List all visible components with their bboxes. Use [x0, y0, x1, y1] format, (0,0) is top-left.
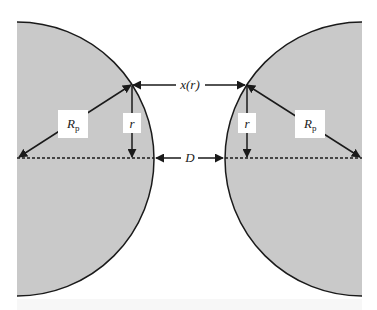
xr-label: x(r) — [179, 77, 200, 92]
right-particle — [225, 22, 362, 296]
caption-fragment — [17, 299, 362, 310]
particle-gap-diagram: x(r) D r r Rp Rp — [0, 0, 377, 310]
left-particle — [17, 22, 154, 296]
d-label: D — [184, 150, 195, 165]
